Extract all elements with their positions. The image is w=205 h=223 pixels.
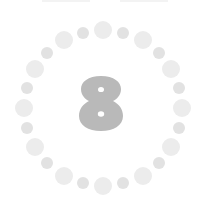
spinner-dot-large <box>55 167 73 185</box>
spinner-dot-small <box>153 47 165 59</box>
spinner-dot-large <box>162 60 180 78</box>
spinner-dot-large <box>173 99 191 117</box>
digit-eight-icon <box>76 74 126 132</box>
spinner-dot-small <box>153 157 165 169</box>
spinner-dot-large <box>94 21 112 39</box>
spinner-dot-large <box>134 167 152 185</box>
spinner-dot-large <box>55 31 73 49</box>
spinner-dot-large <box>94 177 112 195</box>
spinner-dot-small <box>173 82 185 94</box>
spinner-dot-small <box>21 122 33 134</box>
spinner-dot-large <box>134 31 152 49</box>
spinner-dot-small <box>173 122 185 134</box>
spinner-dot-large <box>26 60 44 78</box>
spinner-dot-small <box>41 157 53 169</box>
spinner-dot-large <box>162 138 180 156</box>
spinner-dot-small <box>117 27 129 39</box>
spinner-dot-small <box>21 82 33 94</box>
spinner-dot-large <box>15 99 33 117</box>
spinner-dot-small <box>117 177 129 189</box>
countdown-digit: 8 <box>76 74 126 132</box>
spinner-dot-small <box>77 27 89 39</box>
spinner-dot-small <box>41 47 53 59</box>
spinner-dot-large <box>26 138 44 156</box>
spinner-dot-small <box>77 177 89 189</box>
